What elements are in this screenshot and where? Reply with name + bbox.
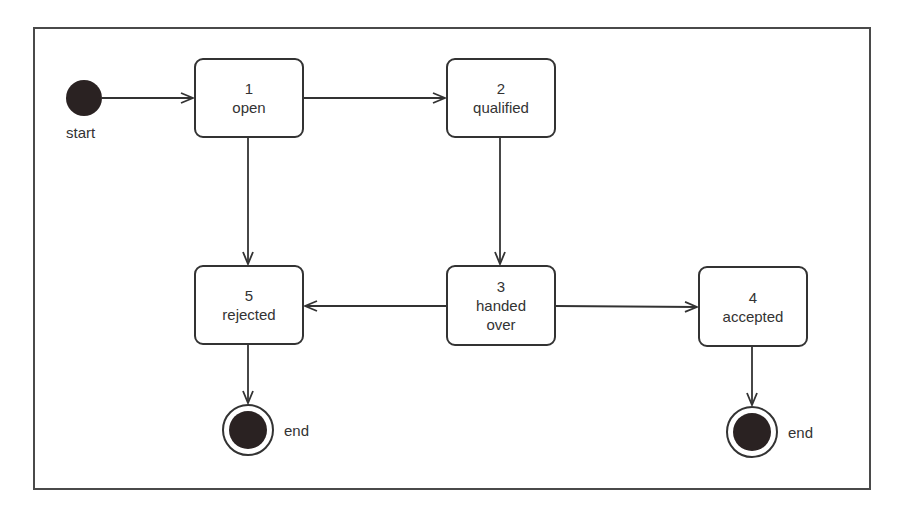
final-state-node-rejected [222, 404, 274, 456]
state-name-line1: handed [476, 296, 526, 315]
initial-state-node [66, 80, 102, 116]
state-handed-over: 3 handed over [446, 265, 556, 346]
state-name: rejected [222, 305, 275, 324]
state-number: 4 [749, 288, 757, 307]
final-state-inner-dot [229, 411, 267, 449]
state-rejected: 5 rejected [194, 265, 304, 345]
state-name: qualified [473, 98, 529, 117]
state-number: 1 [245, 79, 253, 98]
end-label-accepted: end [788, 424, 813, 441]
final-state-node-accepted [726, 406, 778, 458]
state-open: 1 open [194, 58, 304, 138]
end-label-rejected: end [284, 422, 309, 439]
state-name: open [232, 98, 265, 117]
state-qualified: 2 qualified [446, 58, 556, 138]
state-number: 2 [497, 79, 505, 98]
state-name-line2: over [486, 315, 515, 334]
start-label: start [66, 124, 95, 141]
state-name: accepted [723, 307, 784, 326]
state-accepted: 4 accepted [698, 266, 808, 347]
arrow-handed-over-to-accepted [556, 306, 697, 307]
state-number: 3 [497, 277, 505, 296]
final-state-inner-dot [733, 413, 771, 451]
state-number: 5 [245, 286, 253, 305]
